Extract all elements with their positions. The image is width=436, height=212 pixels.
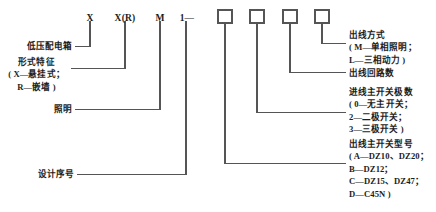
label-incoming-main-switch-poles-line-1: 进线主开关极数 [349, 86, 413, 98]
label-outgoing-main-switch-model-line-2: ( A—DZ10、DZ20； [349, 150, 429, 162]
label-outgoing-main-switch-model-line-4: C—DZ15、DZ47； [349, 175, 429, 187]
label-outgoing-main-switch-model-line-1: 出线主开关型号 [349, 138, 429, 150]
label-form-feature-line-2: ( X—悬挂式； [5, 68, 68, 80]
box-3 [283, 10, 297, 23]
code-symbol-serial: 1— [180, 13, 195, 23]
label-low-voltage-box: 低压配电箱 [27, 41, 73, 53]
leader-form-feature [72, 22, 125, 69]
label-outgoing-mode: 出线方式 ( M—单相照明； L—三相动力 ) [349, 29, 417, 66]
code-symbol-x: X [86, 13, 93, 23]
label-lighting: 照明 [54, 104, 72, 116]
leader-outgoing-circuit-count [290, 23, 345, 73]
code-symbol-m: M [155, 13, 164, 23]
label-outgoing-main-switch-model: 出线主开关型号 ( A—DZ10、DZ20； B—DZ12； C—DZ15、DZ… [349, 138, 429, 200]
code-symbol-xr: X(R) [115, 13, 136, 23]
label-outgoing-mode-line-2: ( M—单相照明； [349, 41, 417, 53]
label-outgoing-circuit-count: 出线回路数 [349, 67, 395, 79]
leader-outgoing-mode [322, 23, 345, 44]
label-outgoing-mode-line-3: L—三相动力 ) [349, 54, 417, 66]
box-1 [218, 10, 232, 23]
box-2 [250, 10, 264, 23]
label-outgoing-mode-line-1: 出线方式 [349, 29, 417, 41]
label-incoming-main-switch-poles-line-4: 3—三极开关 ) [349, 123, 413, 135]
label-form-feature: 形式特征 ( X—悬挂式； R—嵌墙 ) [5, 56, 68, 93]
label-incoming-main-switch-poles-line-2: ( 0—无主开关； [349, 98, 413, 110]
leader-incoming-main-switch-poles [257, 23, 345, 113]
label-outgoing-main-switch-model-line-3: B—DZ12； [349, 163, 429, 175]
leader-design-serial [78, 22, 186, 175]
label-form-feature-line-3: R—嵌墙 ) [5, 81, 68, 93]
leader-lighting [76, 22, 160, 110]
label-outgoing-main-switch-model-line-5: D—C45N ) [349, 188, 429, 200]
label-incoming-main-switch-poles: 进线主开关极数 ( 0—无主开关； 2—二极开关； 3—三极开关 ) [349, 86, 413, 136]
leader-low-voltage-box [76, 22, 90, 47]
label-design-serial: 设计序号 [38, 169, 74, 181]
model-designation-diagram: X X(R) M 1— 低压配电箱 形式特征 ( X—悬挂式； R—嵌墙 ) 照… [0, 0, 436, 212]
label-form-feature-line-1: 形式特征 [5, 56, 68, 68]
label-incoming-main-switch-poles-line-3: 2—二极开关； [349, 111, 413, 123]
label-outgoing-circuit-count-line-1: 出线回路数 [349, 67, 395, 79]
box-4 [315, 10, 329, 23]
